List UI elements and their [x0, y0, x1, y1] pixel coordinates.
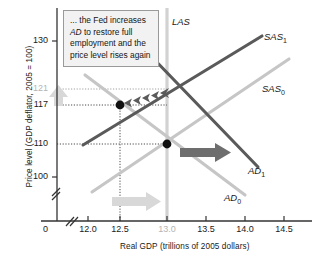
y-axis-break	[52, 188, 60, 200]
ad0-label: AD0	[224, 192, 241, 205]
x-axis-title: Real GDP (trillions of 2005 dollars)	[120, 242, 250, 251]
sas0-label-sub: 0	[281, 89, 285, 96]
gdp-increase-arrow	[112, 192, 161, 211]
ad-shift-arrow	[180, 143, 231, 162]
xtick-label-12-0: 12.0	[79, 224, 97, 234]
ad0-label-text: AD	[224, 192, 237, 203]
y-axis-title: Price level (GDP deflator, 2005 = 100)	[25, 32, 34, 202]
ad0-label-sub: 0	[237, 198, 241, 205]
sas1-label: SAS1	[264, 31, 287, 44]
ad1-label-text: AD	[248, 165, 261, 176]
xtick-label-13-0: 13.0	[158, 224, 176, 234]
xtick-label-12-5: 12.5	[111, 224, 129, 234]
annotation-emphasis: AD	[70, 27, 82, 37]
xtick-label-14-5: 14.5	[275, 224, 293, 234]
ad1-label: AD1	[248, 165, 265, 178]
annotation-text-after: to restore full employment and the price…	[70, 27, 151, 60]
xtick-label-13-5: 13.5	[197, 224, 215, 234]
sas1-label-sub: 1	[283, 37, 287, 44]
xtick-label-14-0: 14.0	[236, 224, 254, 234]
ytick-label-0: 0	[22, 224, 48, 234]
ad-as-figure: 130 121 117 110 100 0 12.0 12.5 13.0 13.…	[0, 0, 319, 258]
x-axis-ticks	[88, 216, 284, 221]
equilibrium-dot-full-employment	[163, 140, 172, 149]
y-axis-ticks	[52, 41, 57, 177]
annotation-text-before: ... the Fed increases	[70, 15, 146, 25]
equilibrium-dot-initial	[116, 101, 125, 110]
sas0-label-text: SAS	[262, 83, 281, 94]
sas0-label: SAS0	[262, 83, 285, 96]
annotation-callout: ... the Fed increases AD to restore full…	[63, 10, 159, 67]
ad1-label-sub: 1	[261, 171, 265, 178]
las-label: LAS	[172, 16, 190, 27]
sas1-label-text: SAS	[264, 31, 283, 42]
price-level-rise-arrow	[49, 85, 68, 106]
